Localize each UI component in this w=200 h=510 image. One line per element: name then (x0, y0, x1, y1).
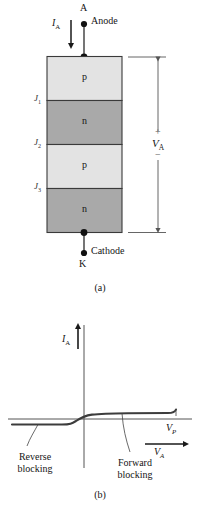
junction-label-j3: J3 (34, 182, 41, 193)
anode-current-label: IA (52, 18, 60, 30)
layer-label-p2: p (47, 160, 122, 171)
figure-container: A Anode IA p n p n J1 J2 J3 + VA − Catho… (0, 0, 200, 510)
anode-symbol-label: A (80, 3, 87, 14)
junction-label-j1: J1 (34, 94, 41, 105)
cathode-symbol-label: K (79, 259, 86, 270)
reverse-blocking-annotation: Reverse blocking (4, 451, 66, 474)
iv-curve (12, 410, 176, 425)
junction-label-j2: J2 (34, 138, 41, 149)
layer-label-p1: p (47, 72, 122, 83)
polarity-plus-label: + (155, 127, 161, 138)
anode-text-label: Anode (91, 16, 118, 27)
forward-blocking-annotation: Forward blocking (104, 457, 166, 480)
panel-a-device-diagram (47, 20, 166, 256)
layer-label-n1: n (47, 116, 122, 127)
caption-panel-a: (a) (0, 283, 200, 294)
chart-y-axis-label: IA (62, 334, 70, 346)
reverse-blocking-leader (27, 425, 38, 447)
polarity-minus-label: − (155, 150, 161, 161)
panel-b-iv-characteristic (8, 325, 192, 468)
layer-label-n2: n (47, 204, 122, 215)
cathode-text-label: Cathode (91, 246, 124, 257)
cathode-terminal-dot (81, 250, 87, 256)
breakover-voltage-label: VP (166, 423, 176, 435)
anode-terminal-dot (81, 21, 87, 27)
caption-panel-b: (b) (0, 490, 200, 501)
